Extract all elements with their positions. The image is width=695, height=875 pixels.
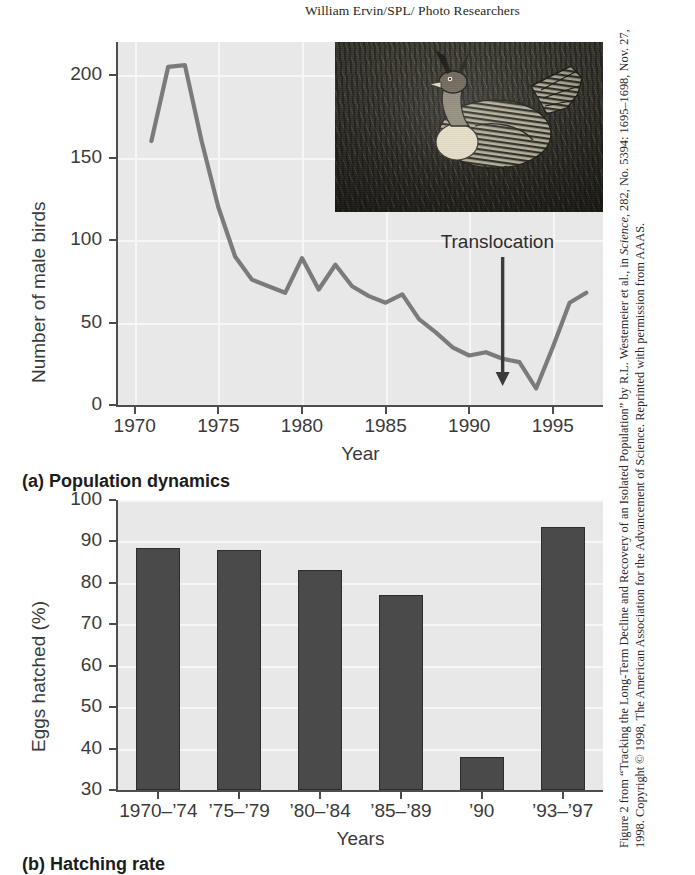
x-tick (134, 407, 136, 414)
line-chart-x-axis (116, 405, 603, 407)
source-caption: Figure 2 from “Tracking the Long-Term De… (616, 2, 649, 848)
y-tick (109, 623, 116, 625)
y-tick (109, 322, 116, 324)
source-caption-container: Figure 2 from “Tracking the Long-Term De… (612, 0, 695, 853)
y-tick-label: 100 (40, 488, 102, 510)
y-tick-label: 50 (40, 695, 102, 717)
y-tick (109, 706, 116, 708)
x-tick (400, 792, 402, 799)
y-tick-label: 70 (40, 612, 102, 634)
line-chart-x-axis-title: Year (118, 443, 603, 465)
translocation-annotation-label: Translocation (441, 231, 554, 253)
bar-chart-x-axis (116, 790, 603, 792)
bar-chart-plot-area (118, 500, 603, 790)
y-tick (109, 157, 116, 159)
source-caption-part1: Figure 2 from “Tracking the Long-Term De… (617, 255, 631, 848)
bar (136, 548, 180, 790)
bar (379, 595, 423, 790)
x-tick-label: 1975 (178, 415, 258, 437)
x-tick (552, 407, 554, 414)
y-tick-label: 50 (40, 311, 102, 333)
panel-b-caption: (b) Hatching rate (22, 854, 165, 875)
x-tick-label: 1980 (262, 415, 342, 437)
x-tick-label: 1970 (95, 415, 175, 437)
y-tick-label: 100 (40, 228, 102, 250)
x-tick (481, 792, 483, 799)
y-tick-label: 200 (40, 63, 102, 85)
translocation-arrow-head (496, 372, 510, 386)
y-tick-label: 150 (40, 146, 102, 168)
x-tick-label: 1995 (513, 415, 593, 437)
x-tick (319, 792, 321, 799)
bar (298, 570, 342, 790)
gridline (118, 707, 603, 709)
gridline (118, 749, 603, 751)
bar-chart-x-axis-title: Years (118, 828, 603, 850)
bar-category-label: ’93–’97 (503, 800, 623, 822)
bar-chart-y-axis (116, 500, 118, 790)
x-tick (238, 792, 240, 799)
bar (460, 757, 504, 790)
y-tick-label: 80 (40, 571, 102, 593)
y-tick (109, 582, 116, 584)
x-tick (562, 792, 564, 799)
y-tick (109, 404, 116, 406)
gridline (118, 500, 603, 502)
y-tick-label: 30 (40, 778, 102, 800)
x-tick-label: 1990 (429, 415, 509, 437)
gridline (118, 624, 603, 626)
y-tick-label: 0 (40, 393, 102, 415)
y-tick (109, 74, 116, 76)
y-tick (109, 789, 116, 791)
line-chart-y-axis (116, 42, 118, 405)
x-tick (468, 407, 470, 414)
y-tick (109, 239, 116, 241)
x-tick (301, 407, 303, 414)
gridline (118, 666, 603, 668)
y-tick (109, 665, 116, 667)
population-line-series (0, 0, 695, 460)
x-tick-label: 1985 (346, 415, 426, 437)
y-tick-label: 60 (40, 654, 102, 676)
y-tick-label: 40 (40, 737, 102, 759)
y-tick (109, 499, 116, 501)
x-tick (157, 792, 159, 799)
y-tick (109, 540, 116, 542)
x-tick (217, 407, 219, 414)
bar (217, 550, 261, 790)
population-line (151, 65, 586, 388)
y-tick-label: 90 (40, 529, 102, 551)
y-tick (109, 748, 116, 750)
bar (541, 527, 585, 790)
source-caption-journal: Science (617, 217, 631, 255)
gridline (118, 541, 603, 543)
x-tick (385, 407, 387, 414)
gridline (118, 583, 603, 585)
